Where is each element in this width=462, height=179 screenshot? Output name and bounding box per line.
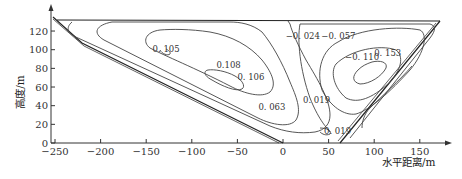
contour-neg-0.057 <box>320 28 425 114</box>
x-tick-label: −150 <box>132 146 159 157</box>
y-axis-arrow-icon <box>49 4 54 11</box>
contour-neg-0.153 <box>354 61 387 84</box>
x-tick-label: 100 <box>365 146 384 157</box>
x-tick-label: 50 <box>322 146 335 157</box>
contour-label: 0. 019 <box>324 126 351 136</box>
contour-label: 0. 153 <box>374 48 401 58</box>
y-tick-label: 120 <box>29 26 48 37</box>
right-cell-contours <box>299 24 435 138</box>
contour-label: 0. 106 <box>237 72 264 82</box>
contour-0.105 <box>146 29 274 94</box>
x-axis-title: 水平距离/m <box>382 156 436 168</box>
contour-label: 0. 019 <box>303 95 330 105</box>
y-axis-title: 高度/m <box>14 75 26 109</box>
contour-label: −0. 057 <box>321 31 355 41</box>
right-bank-inner-line <box>338 23 436 141</box>
contour-label: 0. 063 <box>258 102 285 112</box>
y-tick-label: 20 <box>35 119 48 130</box>
contour-label: 0. 105 <box>153 44 180 54</box>
x-tick-label: 0 <box>280 146 286 157</box>
y-tick-label: 80 <box>35 63 48 74</box>
x-axis-arrow-icon <box>445 141 452 146</box>
contour-neg-0.024 <box>299 24 435 138</box>
contour-chart: −250−200−150−100−50050100150 02040608010… <box>0 0 462 179</box>
x-tick-label: −50 <box>227 146 248 157</box>
y-tick-label: 0 <box>42 138 48 149</box>
contour-label: −0. 024 <box>286 31 320 41</box>
contour-label: 0.108 <box>216 60 240 70</box>
x-tick-label: −100 <box>178 146 205 157</box>
x-tick-label: −200 <box>87 146 114 157</box>
x-ticks: −250−200−150−100−50050100150 <box>41 139 429 157</box>
y-tick-label: 60 <box>35 82 48 93</box>
y-tick-label: 40 <box>35 100 48 111</box>
water-surface-line <box>57 20 440 21</box>
y-tick-label: 100 <box>29 44 48 55</box>
